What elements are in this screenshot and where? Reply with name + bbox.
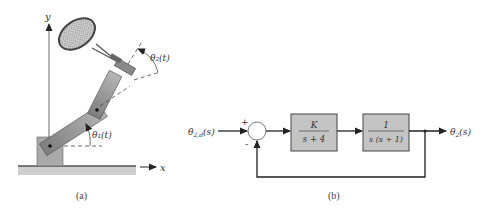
theta2-reference-2 [134, 72, 160, 80]
caption-a: (a) [76, 190, 87, 202]
summing-junction [248, 122, 266, 140]
tennis-racket [53, 12, 122, 64]
joint-1 [48, 144, 52, 148]
caption-b: (b) [328, 190, 340, 202]
theta1-label: θ₁(t) [92, 130, 112, 140]
plus-sign: + [241, 117, 249, 127]
plant-numerator: 1 [383, 120, 389, 130]
x-axis-label: x [160, 162, 166, 173]
minus-sign: - [245, 139, 248, 149]
plant-denominator: s (s + 1) [369, 135, 403, 144]
controller-numerator: K [310, 120, 319, 130]
input-label: θ2,d(s) [188, 127, 215, 138]
theta2-label: θ₂(t) [150, 53, 170, 63]
robot-arm-figure: x y θ₁(t) θ₂(t) [18, 11, 170, 202]
theta2-reference-1 [128, 40, 143, 64]
joint-2 [95, 108, 99, 112]
output-label: θ2(s) [450, 127, 471, 138]
controller-denominator: s + 4 [303, 134, 325, 144]
block-diagram: θ2,d(s) + - K s + 4 1 s (s + 1) θ2(s) (b… [188, 114, 471, 202]
ground [18, 166, 136, 175]
y-axis-label: y [44, 11, 51, 22]
figure-canvas: x y θ₁(t) θ₂(t) [0, 0, 481, 210]
